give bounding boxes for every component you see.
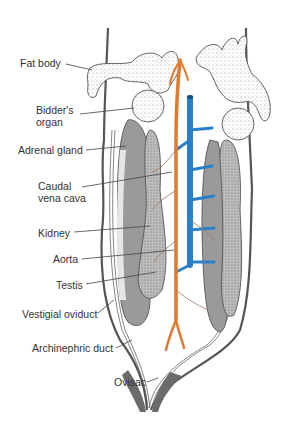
bidders-organ-left: [132, 90, 164, 122]
label-caudal-vena-cava: Caudal vena cava: [38, 180, 86, 204]
label-vestigial-oviduct: Vestigial oviduct: [22, 308, 97, 320]
aorta-vessel: [166, 60, 188, 350]
vena-cava-cut: [187, 95, 193, 99]
label-bidders-organ-line2: organ: [36, 116, 74, 128]
label-bidders-organ: Bidder's organ: [36, 104, 74, 128]
bidders-organ-right: [222, 108, 254, 140]
label-adrenal-gland: Adrenal gland: [18, 144, 83, 156]
label-fat-body: Fat body: [20, 57, 61, 69]
testis-right: [220, 140, 242, 316]
label-caudal-vena-cava-line1: Caudal: [38, 180, 86, 192]
label-aorta: Aorta: [53, 253, 78, 265]
label-caudal-vena-cava-line2: vena cava: [38, 192, 86, 204]
label-ovisac: Ovisac: [114, 376, 146, 388]
ovisac-right: [152, 372, 182, 412]
label-testis: Testis: [56, 279, 83, 291]
label-archinephric-duct: Archinephric duct: [32, 342, 113, 354]
label-kidney: Kidney: [38, 227, 70, 239]
label-bidders-organ-line1: Bidder's: [36, 104, 74, 116]
fat-body-right: [196, 36, 270, 121]
fat-body-left: [88, 51, 180, 97]
